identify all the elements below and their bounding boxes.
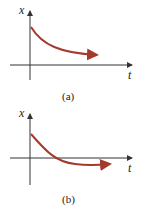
figure-b-axes bbox=[10, 114, 132, 185]
y-axis-label-b: x bbox=[19, 106, 24, 121]
y-axis-label-a: x bbox=[19, 3, 24, 18]
curve-a bbox=[31, 27, 97, 55]
caption-b: (b) bbox=[62, 193, 75, 205]
caption-a: (a) bbox=[62, 90, 74, 102]
figure-a-axes bbox=[10, 11, 132, 80]
x-axis-label-b: t bbox=[128, 161, 131, 176]
x-axis-label-a: t bbox=[128, 68, 131, 83]
curve-b bbox=[31, 134, 110, 165]
